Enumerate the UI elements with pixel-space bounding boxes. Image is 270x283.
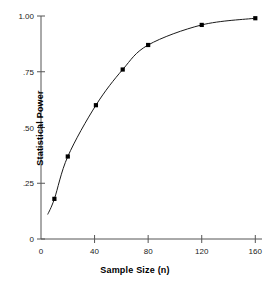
- y-tick-label: .75: [8, 67, 34, 76]
- data-point-marker: [121, 67, 125, 71]
- y-tick-label: 0: [8, 235, 34, 244]
- x-axis-title: Sample Size (n): [0, 265, 270, 275]
- y-tick-label: 1.00: [8, 12, 34, 21]
- x-tick-label: 40: [90, 247, 99, 256]
- x-tick-label: 0: [39, 247, 43, 256]
- data-point-marker: [200, 23, 204, 27]
- x-tick-label: 160: [249, 247, 262, 256]
- data-point-markers: [52, 16, 257, 201]
- x-tick-label: 120: [195, 247, 208, 256]
- x-tick-label: 80: [144, 247, 153, 256]
- y-tick-label: .50: [8, 123, 34, 132]
- y-tick-label: .25: [8, 179, 34, 188]
- axes: [41, 16, 262, 239]
- data-point-marker: [52, 197, 56, 201]
- data-point-marker: [253, 16, 257, 20]
- data-point-marker: [94, 103, 98, 107]
- data-point-marker: [146, 43, 150, 47]
- power-curve: [48, 18, 256, 214]
- statistical-power-chart: 0.25.50.751.00 04080120160 Statistical P…: [0, 0, 270, 283]
- data-point-marker: [66, 154, 70, 158]
- y-axis-title: Statistical Power: [35, 90, 45, 165]
